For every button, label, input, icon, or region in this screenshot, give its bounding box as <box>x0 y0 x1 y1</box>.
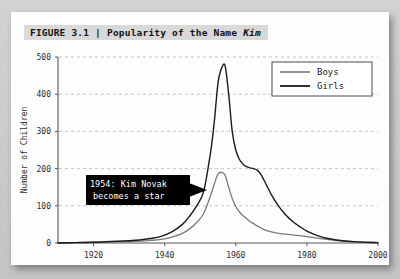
x-tick-label: 1920 <box>84 251 103 260</box>
annotation-line-1: 1954: Kim Novak <box>90 179 167 189</box>
y-tick-label: 500 <box>37 53 52 62</box>
figure-card: FIGURE 3.1 | Popularity of the Name Kim … <box>11 12 389 265</box>
chart-legend[interactable]: Boys Girls <box>272 62 372 96</box>
y-tick-label: 0 <box>46 239 51 248</box>
x-tick-label: 1980 <box>297 251 316 260</box>
page-background: FIGURE 3.1 | Popularity of the Name Kim … <box>0 0 400 279</box>
y-tick-label: 200 <box>37 165 52 174</box>
x-tick-labels-group: 19201940196019802000 <box>84 251 388 260</box>
annotation-pointer-icon <box>189 183 207 197</box>
x-tick-label: 2000 <box>368 251 387 260</box>
y-tick-labels-group: 0100200300400500 <box>37 53 52 248</box>
annotation-callout[interactable]: 1954: Kim Novak becomes a star <box>86 175 207 205</box>
y-axis-title: Number of Children <box>20 106 29 193</box>
y-tick-label: 400 <box>37 90 52 99</box>
legend-label-boys: Boys <box>317 67 339 77</box>
x-tick-label: 1960 <box>226 251 245 260</box>
annotation-line-2: becomes a star <box>93 191 165 201</box>
x-tick-label: 1940 <box>155 251 174 260</box>
legend-label-girls: Girls <box>317 81 344 91</box>
y-tick-label: 100 <box>37 202 52 211</box>
chart-area: 0100200300400500 19201940196019802000 Nu… <box>11 12 389 265</box>
y-tick-label: 300 <box>37 127 52 136</box>
line-chart-svg: 0100200300400500 19201940196019802000 Nu… <box>11 12 389 265</box>
